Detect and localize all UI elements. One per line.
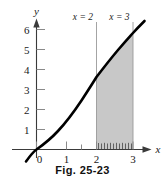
x-tick-labels: 0 1 2 3 <box>37 153 137 165</box>
figure-container: 1 2 3 4 5 6 0 1 2 3 y x x = 2 x = 3 Fig.… <box>0 0 165 188</box>
plot-area: 1 2 3 4 5 6 0 1 2 3 y x x = 2 x = 3 <box>0 0 165 165</box>
label-x-equals-2: x = 2 <box>72 12 93 22</box>
y-tick-label-3: 3 <box>24 84 30 96</box>
x-axis-label: x <box>155 143 161 155</box>
y-tick-label-1: 1 <box>24 124 30 136</box>
y-tick-label-2: 2 <box>24 104 30 116</box>
y-tick-labels: 1 2 3 4 5 6 <box>24 24 30 136</box>
shaded-region <box>97 33 134 150</box>
y-axis-ticks <box>37 30 46 130</box>
label-x-equals-3: x = 3 <box>108 12 129 22</box>
y-tick-label-6: 6 <box>24 24 30 36</box>
x-tick-label-3: 3 <box>130 153 136 165</box>
y-tick-label-4: 4 <box>24 64 30 76</box>
figure-caption: Fig. 25-23 <box>0 164 165 176</box>
x-tick-label-0: 0 <box>37 153 43 165</box>
y-tick-label-5: 5 <box>24 44 30 56</box>
x-tick-label-2: 2 <box>94 153 100 165</box>
x-tick-label-1: 1 <box>64 153 70 165</box>
y-axis <box>33 19 39 159</box>
y-axis-label: y <box>33 5 39 17</box>
